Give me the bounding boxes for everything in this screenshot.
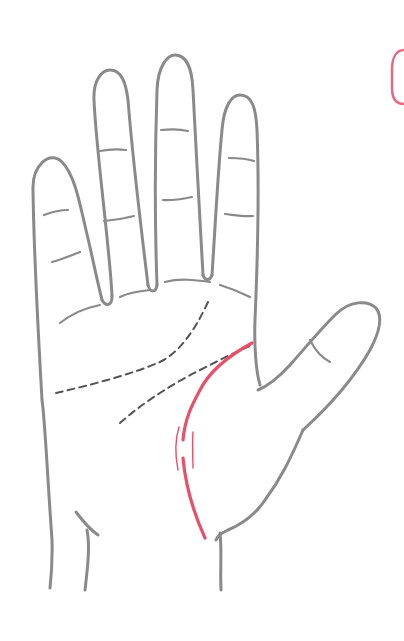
middle-finger	[156, 55, 204, 285]
pinky-finger	[33, 158, 102, 588]
finger-creases	[44, 129, 254, 262]
wrist-right	[220, 533, 221, 590]
palm-illustration	[0, 0, 404, 641]
corner-badge	[392, 50, 404, 104]
palm-right-edge	[216, 430, 303, 540]
wrist-left	[85, 530, 88, 590]
index-finger	[212, 95, 260, 385]
life-line	[176, 343, 252, 538]
sister-line-left	[176, 427, 179, 470]
hand-outline	[33, 55, 380, 590]
palm-top-creases	[60, 280, 250, 323]
thumb-crease	[310, 340, 330, 362]
thumb	[258, 303, 380, 430]
ring-finger	[94, 70, 148, 296]
heart-line	[56, 302, 208, 393]
